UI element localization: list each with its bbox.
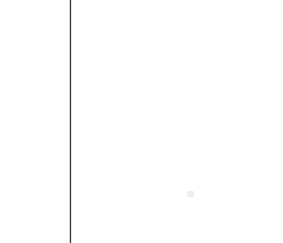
vertical-margin-rule (70, 0, 71, 243)
scanned-page (0, 0, 283, 243)
page-content-area (0, 0, 283, 243)
faint-speck-artifact (187, 191, 194, 197)
